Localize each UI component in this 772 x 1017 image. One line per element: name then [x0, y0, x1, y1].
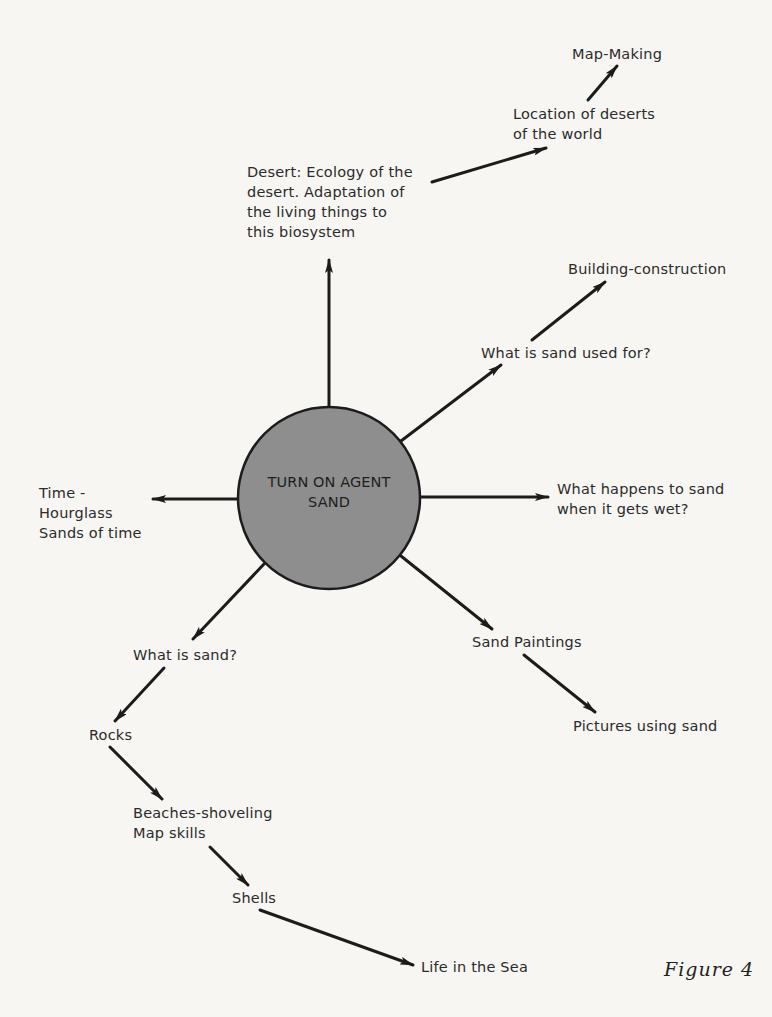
node-shells: Shells: [232, 888, 276, 908]
node-location-line2: of the world: [513, 124, 655, 144]
arrow-desert-to-location: [432, 148, 546, 182]
node-beaches-line2: Map skills: [133, 823, 273, 843]
arrow-rocks-to-beaches: [110, 747, 162, 799]
node-time-line2: Hourglass: [39, 503, 142, 523]
node-desert-line1: Desert: Ecology of the: [247, 162, 413, 182]
node-life-in-the-sea: Life in the Sea: [421, 957, 528, 977]
node-rocks: Rocks: [89, 725, 132, 745]
node-sand-paintings: Sand Paintings: [472, 632, 582, 652]
arrow-hub-to-used-for: [401, 365, 501, 441]
hub-label-line2: SAND: [239, 492, 419, 512]
node-beaches-map-skills: Beaches-shoveling Map skills: [133, 803, 273, 843]
node-what-is-sand-used-for: What is sand used for?: [481, 343, 651, 363]
arrow-what-is-to-rocks: [115, 668, 164, 721]
arrow-used-for-to-building: [532, 282, 605, 340]
node-wet-line1: What happens to sand: [557, 479, 724, 499]
arrow-location-to-mapmaking: [588, 66, 617, 100]
node-what-is-sand: What is sand?: [133, 645, 237, 665]
node-map-making: Map-Making: [572, 44, 662, 64]
node-desert-line4: this biosystem: [247, 222, 413, 242]
node-time-hourglass: Time - Hourglass Sands of time: [39, 483, 142, 543]
arrow-shells-to-sea: [260, 910, 413, 965]
node-time-line3: Sands of time: [39, 523, 142, 543]
node-pictures-using-sand: Pictures using sand: [573, 716, 717, 736]
figure-caption: Figure 4: [664, 958, 754, 980]
hub-label-line1: TURN ON AGENT: [239, 472, 419, 492]
arrow-hub-to-what-is: [193, 564, 264, 639]
node-desert-ecology: Desert: Ecology of the desert. Adaptatio…: [247, 162, 413, 242]
node-desert-line3: the living things to: [247, 202, 413, 222]
node-sand-gets-wet: What happens to sand when it gets wet?: [557, 479, 724, 519]
arrow-paintings-to-pictures: [524, 655, 595, 712]
hub-label: TURN ON AGENT SAND: [239, 472, 419, 512]
node-location-line1: Location of deserts: [513, 104, 655, 124]
node-wet-line2: when it gets wet?: [557, 499, 724, 519]
node-beaches-line1: Beaches-shoveling: [133, 803, 273, 823]
arrow-hub-to-paintings: [401, 556, 492, 629]
node-time-line1: Time -: [39, 483, 142, 503]
node-building-construction: Building-construction: [568, 259, 726, 279]
node-desert-line2: desert. Adaptation of: [247, 182, 413, 202]
node-location-of-deserts: Location of deserts of the world: [513, 104, 655, 144]
arrow-beaches-to-shells: [210, 847, 248, 885]
